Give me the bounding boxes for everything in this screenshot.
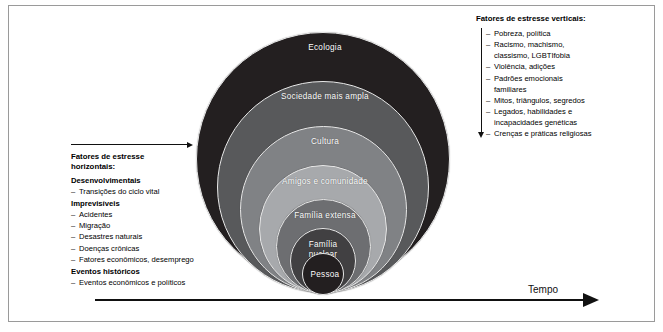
list-item: Acidentes bbox=[71, 210, 206, 221]
group-heading-desenvolvimentais: Desenvolvimentais bbox=[71, 176, 206, 187]
vertical-stressors-list: Pobreza, política Racismo, machismo, cla… bbox=[486, 29, 651, 140]
time-axis-label: Tempo bbox=[528, 284, 558, 295]
horizontal-stressors-arrow-shaft bbox=[71, 144, 188, 145]
vertical-stressors-title: Fatores de estresse verticais: bbox=[476, 14, 651, 24]
time-axis-arrow-head bbox=[583, 293, 599, 307]
ring-label-ecologia: Ecologia bbox=[190, 43, 460, 53]
ring-label-pessoa: Pessoa bbox=[190, 270, 460, 280]
vertical-stressors-arrow-shaft bbox=[481, 28, 482, 133]
group-heading-imprevisiveis: Imprevisíveis bbox=[71, 199, 206, 210]
ring-label-cultura: Cultura bbox=[190, 137, 460, 147]
list-item: Desastres naturais bbox=[71, 232, 206, 243]
time-axis-line bbox=[95, 299, 587, 301]
ring-label-familia-extensa: Família extensa bbox=[190, 211, 460, 221]
list-item: Padrões emocionais familiares bbox=[486, 74, 589, 96]
list-item: Crenças e práticas religiosas bbox=[486, 129, 651, 140]
concentric-circles-diagram: Ecologia Sociedade mais ampla Cultura Am… bbox=[190, 25, 460, 310]
list-item: Violência, adições bbox=[486, 62, 651, 73]
ring-label-sociedade-mais-ampla: Sociedade mais ampla bbox=[190, 92, 460, 102]
horizontal-stressors-title-line1: Fatores de estresse bbox=[71, 152, 206, 162]
ring-label-amigos-e-comunidade: Amigos e comunidade bbox=[190, 177, 460, 187]
list-item: Pobreza, política bbox=[486, 29, 651, 40]
list-item: Legados, habilidades e incapacidades gen… bbox=[486, 107, 606, 129]
list-item: Racismo, machismo, classismo, LGBTIfobia bbox=[486, 40, 599, 62]
list-item: Fatores econômicos, desemprego bbox=[71, 255, 206, 266]
list-item: Transições do ciclo vital bbox=[71, 187, 206, 198]
group-heading-eventos-historicos: Eventos históricos bbox=[71, 267, 206, 278]
group-list-eventos-historicos: Eventos econômicos e políticos bbox=[71, 278, 206, 289]
list-item: Eventos econômicos e políticos bbox=[71, 278, 206, 289]
list-item: Doenças crônicas bbox=[71, 244, 206, 255]
horizontal-stressors-title-line2: horizontais: bbox=[71, 162, 206, 172]
vertical-stressors-block: Fatores de estresse verticais: Pobreza, … bbox=[476, 14, 651, 140]
horizontal-stressors-block: Fatores de estresse horizontais: Desenvo… bbox=[71, 152, 206, 289]
group-list-desenvolvimentais: Transições do ciclo vital bbox=[71, 187, 206, 198]
list-item: Migração bbox=[71, 221, 206, 232]
vertical-stressors-arrow-head bbox=[478, 132, 484, 138]
list-item: Mitos, triângulos, segredos bbox=[486, 96, 651, 107]
figure-page: Ecologia Sociedade mais ampla Cultura Am… bbox=[0, 0, 663, 332]
horizontal-stressors-arrow-head bbox=[187, 142, 193, 148]
group-list-imprevisiveis: Acidentes Migração Desastres naturais Do… bbox=[71, 210, 206, 266]
